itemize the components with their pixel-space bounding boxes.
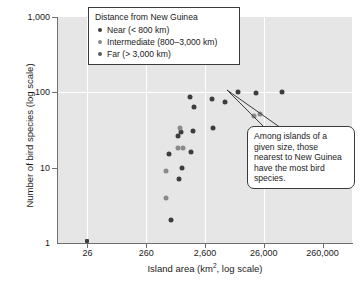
scatter-point — [188, 94, 193, 99]
scatter-point — [188, 150, 193, 155]
x-tick-mark — [264, 243, 265, 248]
x-tick-label: 2,600 — [194, 248, 217, 258]
scatter-point — [181, 145, 186, 150]
scatter-point — [192, 105, 197, 110]
legend: Distance from New Guinea Near (< 800 km)… — [88, 7, 240, 65]
y-tick-mark — [52, 92, 58, 93]
legend-marker-icon — [98, 52, 102, 56]
scatter-point — [211, 125, 216, 130]
scatter-point — [190, 128, 195, 133]
x-axis-title-base: Island area (km — [147, 263, 212, 274]
gridline-horizontal — [58, 92, 352, 93]
legend-marker-icon — [98, 28, 102, 32]
chart-figure: 1101001,000 262602,60026,000260,000 Isla… — [0, 0, 364, 282]
y-tick-label: 100 — [35, 87, 50, 97]
legend-marker-icon — [98, 40, 102, 44]
legend-title: Distance from New Guinea — [95, 12, 233, 22]
x-tick-label: 260,000 — [306, 248, 339, 258]
scatter-point — [175, 134, 180, 139]
x-tick-mark — [87, 243, 88, 248]
legend-item: Far (> 3,000 km) — [95, 49, 233, 59]
callout-annotation: Among islands of a given size, those nea… — [247, 126, 355, 189]
y-tick-label: 1 — [45, 238, 50, 248]
scatter-point — [177, 125, 182, 130]
x-tick-mark — [146, 243, 147, 248]
x-axis-title: Island area (km2, log scale) — [58, 262, 352, 274]
y-tick-label: 10 — [40, 163, 50, 173]
x-tick-label: 26,000 — [250, 248, 278, 258]
legend-item: Intermediate (800–3,000 km) — [95, 37, 233, 47]
x-tick-label: 260 — [139, 248, 154, 258]
x-tick-mark — [323, 243, 324, 248]
scatter-point — [179, 165, 184, 170]
scatter-point — [169, 218, 174, 223]
y-axis-line — [57, 17, 58, 244]
x-tick-mark — [205, 243, 206, 248]
scatter-point — [209, 96, 214, 101]
y-tick-label: 1,000 — [27, 12, 50, 22]
scatter-point — [167, 152, 172, 157]
scatter-point — [163, 195, 168, 200]
y-tick-mark — [52, 17, 58, 18]
legend-item-label: Far (> 3,000 km) — [107, 49, 171, 59]
legend-item-label: Intermediate (800–3,000 km) — [107, 37, 217, 47]
scatter-point — [176, 177, 181, 182]
y-axis-title: Number of bird species (log scale) — [24, 41, 35, 231]
x-tick-label: 26 — [82, 248, 92, 258]
legend-item-label: Near (< 800 km) — [107, 25, 169, 35]
y-tick-mark — [52, 168, 58, 169]
x-axis-title-tail: , log scale) — [217, 263, 263, 274]
scatter-point — [163, 169, 168, 174]
legend-items: Near (< 800 km)Intermediate (800–3,000 k… — [95, 25, 233, 59]
callout-text: Among islands of a given size, those nea… — [254, 131, 349, 184]
scatter-point — [85, 239, 89, 243]
legend-item: Near (< 800 km) — [95, 25, 233, 35]
